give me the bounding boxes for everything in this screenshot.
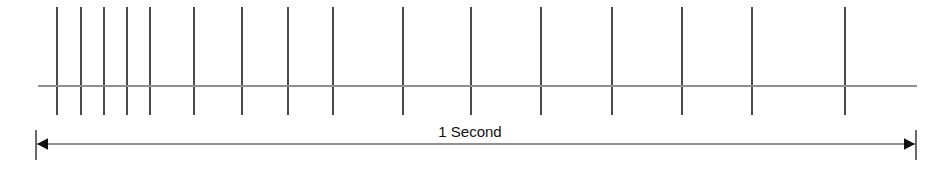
arrow-right-icon (904, 138, 915, 149)
dimension-label: 1 Second (438, 123, 501, 140)
diagram-canvas: 1 Second (0, 0, 941, 181)
arrow-left-icon (37, 138, 48, 149)
tick-mark-group (57, 7, 845, 115)
timing-diagram-figure: 1 Second (0, 0, 941, 181)
